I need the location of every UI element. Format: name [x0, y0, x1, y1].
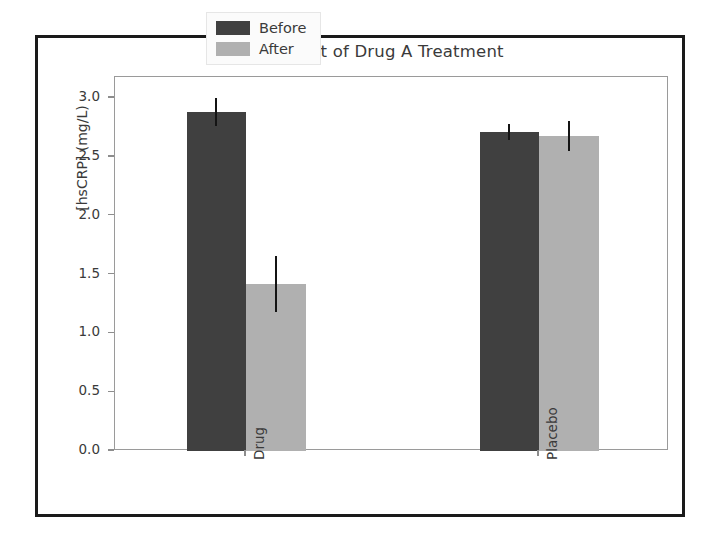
figure: Effect of Drug A Treatment [hsCRP] (mg/L… — [0, 0, 720, 550]
y-tick-label: 3.0 — [79, 88, 100, 104]
bar-placebo-before — [480, 132, 540, 451]
error-bar-drug-after — [275, 256, 277, 312]
error-bar-placebo-before — [508, 124, 510, 140]
plot-area — [114, 76, 668, 450]
x-tick-label: Drug — [251, 427, 267, 460]
legend-item-before: Before — [216, 20, 306, 36]
legend-label-after: After — [259, 41, 294, 57]
bar-placebo-after — [539, 136, 599, 451]
y-tick-mark — [108, 391, 114, 392]
error-bar-placebo-after — [568, 121, 570, 152]
legend-item-after: After — [216, 41, 306, 57]
x-tick-label: Placebo — [544, 407, 560, 460]
y-tick-label: 2.5 — [79, 147, 100, 163]
y-tick-mark — [108, 449, 114, 450]
y-tick-mark — [108, 155, 114, 156]
y-tick-label: 0.5 — [79, 382, 100, 398]
y-tick-mark — [108, 214, 114, 215]
legend-label-before: Before — [259, 20, 306, 36]
y-tick-mark — [108, 332, 114, 333]
bar-drug-before — [187, 112, 247, 451]
plot-inner — [115, 77, 667, 449]
y-tick-label: 2.0 — [79, 206, 100, 222]
y-tick-label: 0.0 — [79, 441, 100, 457]
legend: BeforeAfter — [206, 12, 321, 65]
legend-swatch-before — [216, 21, 250, 35]
y-tick-label: 1.5 — [79, 265, 100, 281]
x-tick-mark — [244, 450, 245, 456]
y-tick-label: 1.0 — [79, 323, 100, 339]
error-bar-drug-before — [215, 98, 217, 126]
y-tick-mark — [108, 96, 114, 97]
x-tick-mark — [537, 450, 538, 456]
chart-title: Effect of Drug A Treatment — [114, 42, 668, 61]
y-tick-mark — [108, 273, 114, 274]
legend-swatch-after — [216, 42, 250, 56]
